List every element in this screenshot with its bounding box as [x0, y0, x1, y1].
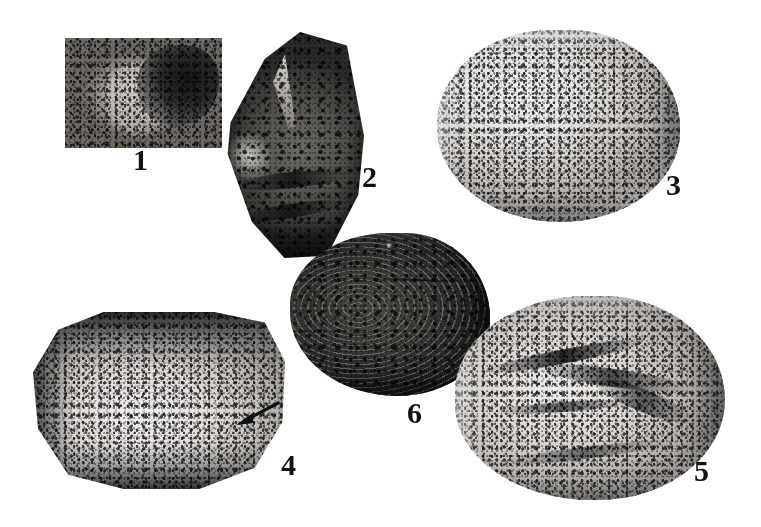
specimen-photo-3 — [437, 30, 680, 222]
specimen-2-surface — [222, 32, 364, 258]
specimen-4-fine-grain — [33, 312, 285, 489]
fossil-plate: 1 2 3 — [0, 0, 761, 527]
specimen-3-rim-shading — [437, 30, 680, 222]
figure-label-5: 5 — [694, 456, 709, 486]
specimen-photo-1 — [65, 38, 222, 148]
specimen-4-surface — [33, 312, 285, 489]
specimen-photo-5 — [455, 296, 725, 500]
specimen-1-surface — [65, 38, 222, 148]
specimen-3-surface — [437, 30, 680, 222]
specimen-photo-4 — [33, 312, 285, 489]
figure-label-1: 1 — [133, 145, 148, 175]
specimen-5-surface — [455, 296, 725, 500]
figure-label-4: 4 — [281, 450, 296, 480]
specimen-photo-2 — [222, 32, 364, 258]
figure-label-3: 3 — [666, 170, 681, 200]
specimen-5-rim-shading — [455, 296, 725, 500]
specimen-1-fine-grain — [65, 38, 222, 148]
specimen-2-fine-grain — [222, 32, 364, 258]
figure-label-6: 6 — [407, 398, 422, 428]
figure-label-2: 2 — [362, 162, 377, 192]
